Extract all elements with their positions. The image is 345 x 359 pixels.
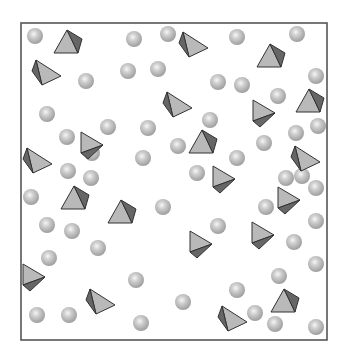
sphere-particle [140,120,156,136]
sphere-particle [29,307,45,323]
tetrahedron-particle [190,231,212,258]
sphere-particle [189,165,205,181]
sphere-particle [267,316,283,332]
sphere-particle [308,213,324,229]
tetrahedron-particle [163,92,192,117]
sphere-particle [234,77,250,93]
tetrahedron-particle [257,44,285,67]
sphere-particle [270,88,286,104]
tetrahedron-particle [252,222,274,249]
sphere-particle [155,199,171,215]
sphere-particle [308,180,324,196]
sphere-particle [90,240,106,256]
sphere-particle [229,29,245,45]
sphere-particle [229,150,245,166]
tetrahedron-particle [189,130,217,153]
tetrahedron-particle [61,186,89,209]
particle-box-diagram [0,0,345,359]
sphere-particle [59,129,75,145]
sphere-particle [150,61,166,77]
sphere-particle [175,294,191,310]
sphere-particle [64,223,80,239]
sphere-particle [308,319,324,335]
sphere-particle [229,282,245,298]
sphere-particle [83,170,99,186]
sphere-particle [170,138,186,154]
sphere-particle [61,307,77,323]
tetrahedron-particle [54,30,82,53]
sphere-particle [210,218,226,234]
tetrahedron-particle [23,264,45,291]
sphere-particle [256,135,272,151]
sphere-particle [27,28,43,44]
sphere-particle [39,106,55,122]
tetrahedron-particle [296,89,324,112]
sphere-particle [210,74,226,90]
sphere-particle [39,217,55,233]
sphere-particle [60,163,76,179]
sphere-particle [310,118,326,134]
sphere-particle [286,234,302,250]
tetrahedron-particle [213,166,235,193]
sphere-particle [126,31,142,47]
sphere-particle [135,150,151,166]
sphere-particle [247,305,263,321]
sphere-particle [271,268,287,284]
sphere-particle [278,170,294,186]
tetrahedron-particle [179,32,208,57]
sphere-particle [289,26,305,42]
sphere-particle [128,272,144,288]
sphere-particle [258,199,274,215]
sphere-particle [288,125,304,141]
tetrahedron-particle [32,60,61,85]
sphere-particle [100,119,116,135]
tetrahedron-particle [108,200,136,223]
sphere-particle [78,73,94,89]
tetrahedron-particle [218,306,247,331]
tetrahedron-particle [86,289,115,314]
sphere-particle [23,189,39,205]
tetrahedron-particle [253,100,275,127]
tetrahedron-particle [278,187,300,214]
sphere-particle [308,68,324,84]
tetrahedron-particle [23,148,52,173]
sphere-particles [23,26,326,335]
sphere-particle [120,63,136,79]
tetrahedron-particle [291,146,320,171]
sphere-particle [41,250,57,266]
sphere-particle [308,256,324,272]
sphere-particle [202,112,218,128]
sphere-particle [160,26,176,42]
sphere-particle [133,315,149,331]
tetrahedron-particle [271,289,299,312]
